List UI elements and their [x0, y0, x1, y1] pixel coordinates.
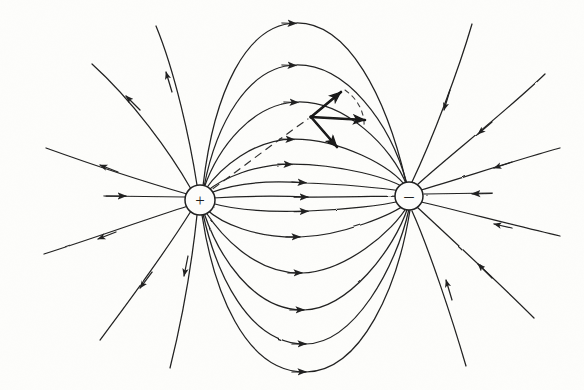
- field-line-arrowheads: [98, 23, 512, 372]
- arrowhead-pos-up-1: [166, 72, 172, 92]
- outer-line-neg-down-2: [417, 207, 534, 318]
- outer-line-neg-up-3: [421, 148, 560, 190]
- arrowhead-neg-up-2: [478, 122, 492, 134]
- negative-charge-symbol: –: [403, 185, 414, 206]
- dipole-field-diagram: + –: [0, 0, 584, 390]
- vector-component-upper: [311, 92, 341, 117]
- arrowhead-arc-upper-5: [278, 164, 292, 165]
- arrowhead-arc-upper-3: [284, 102, 298, 103]
- field-point-marker: [309, 115, 313, 119]
- arrowhead-neg-up-1: [444, 90, 450, 110]
- outer-line-pos-up-1: [156, 26, 197, 185]
- outer-line-pos-up-2: [92, 64, 191, 189]
- outer-line-neg-up-2: [416, 74, 545, 186]
- arrowhead-neg-down-1: [494, 224, 512, 228]
- positive-charge: +: [185, 185, 215, 215]
- outer-field-lines-negative: [412, 24, 560, 366]
- negative-charge: –: [395, 182, 423, 210]
- arrowhead-pos-up-2: [126, 96, 140, 110]
- arrowhead-neg-up-3: [494, 162, 512, 168]
- arrowhead-pos-down-3: [184, 256, 188, 276]
- arrowhead-pos-down-2: [140, 272, 152, 288]
- dashed-angle-arc: [345, 90, 364, 128]
- field-line-arc-lower-3: [204, 207, 408, 310]
- arrowhead-arc-upper-1: [282, 23, 296, 24]
- outer-line-pos-down-1: [44, 206, 188, 254]
- arrowhead-mid-1: [292, 182, 306, 183]
- outer-line-neg-up-1: [412, 24, 472, 182]
- vector-resultant: [311, 117, 365, 120]
- positive-charge-symbol: +: [195, 191, 205, 210]
- field-line-arc-lower-4: [203, 209, 409, 344]
- arrowhead-arc-upper-4: [280, 139, 294, 140]
- arrowhead-neg-down-2: [478, 264, 492, 278]
- arrowhead-arc-upper-2: [282, 65, 296, 66]
- charge-markers: + –: [185, 182, 423, 215]
- field-line-mid-3: [211, 201, 401, 211]
- outer-line-neg-down-3: [412, 211, 466, 366]
- field-line-arc-lower-5: [202, 210, 410, 372]
- arrowhead-pos-up-3: [100, 165, 118, 172]
- field-line-arc-upper-2: [204, 65, 407, 187]
- arrowhead-neg-down-3: [446, 280, 452, 300]
- field-line-canvas: + –: [0, 0, 584, 390]
- field-line-mid-1: [210, 182, 401, 193]
